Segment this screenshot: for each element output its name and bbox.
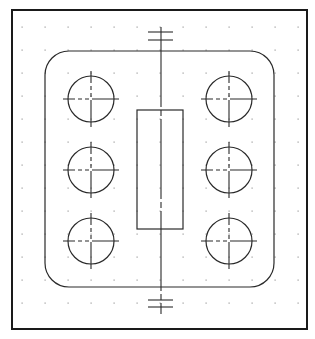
bolt-hole[interactable] [201,142,257,198]
drawing-canvas[interactable] [0,0,315,339]
bolt-holes [63,71,257,269]
bolt-hole[interactable] [63,142,119,198]
bolt-hole[interactable] [63,213,119,269]
bolt-hole[interactable] [201,71,257,127]
grid-dots [22,27,299,304]
rounded-plate-outline[interactable] [45,51,274,287]
bolt-hole[interactable] [201,213,257,269]
drawing-frame [12,10,307,329]
bolt-hole[interactable] [63,71,119,127]
